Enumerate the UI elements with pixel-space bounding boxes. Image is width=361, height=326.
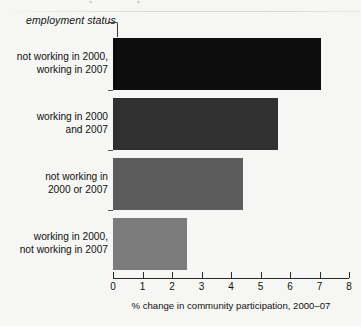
x-axis-tick-label: 2 [169, 281, 175, 292]
x-axis-tick [349, 272, 350, 278]
chart-figure: employment status not working in 2000, w… [0, 0, 361, 326]
category-label: not working in 2000, working in 2007 [0, 51, 108, 76]
x-axis-tick [202, 272, 203, 278]
x-axis-tick-label: 5 [258, 281, 264, 292]
category-label: not working in 2000 or 2007 [0, 171, 108, 196]
x-axis-tick-label: 1 [140, 281, 146, 292]
x-axis-tick [113, 272, 114, 278]
category-label: working in 2000 and 2007 [0, 111, 108, 136]
category-axis-labels: not working in 2000, working in 2007work… [0, 34, 108, 274]
x-axis-tick-label: 3 [199, 281, 205, 292]
value-axis-line [113, 278, 349, 279]
bar [113, 38, 321, 90]
bar [113, 158, 243, 210]
x-axis-tick-label: 4 [228, 281, 234, 292]
x-axis-tick-label: 0 [110, 281, 116, 292]
category-label: working in 2000, not working in 2007 [0, 231, 108, 256]
category-axis-tick [108, 90, 113, 91]
x-axis-tick [172, 272, 173, 278]
x-axis-title: % change in community participation, 200… [113, 300, 349, 311]
employment-status-axis-label: employment status [26, 14, 116, 26]
x-axis-tick-label: 7 [317, 281, 323, 292]
x-axis-tick [320, 272, 321, 278]
bar [113, 218, 187, 270]
x-axis-tick [143, 272, 144, 278]
x-axis-tick [290, 272, 291, 278]
x-axis-tick-label: 8 [346, 281, 352, 292]
x-axis-tick [231, 272, 232, 278]
x-axis-tick-label: 6 [287, 281, 293, 292]
category-axis-tick [108, 150, 113, 151]
plot-area [113, 34, 349, 274]
category-axis-tick [108, 210, 113, 211]
bar [113, 98, 278, 150]
scan-artifact [60, 0, 200, 4]
x-axis-tick [261, 272, 262, 278]
scan-edge-line [0, 11, 361, 12]
